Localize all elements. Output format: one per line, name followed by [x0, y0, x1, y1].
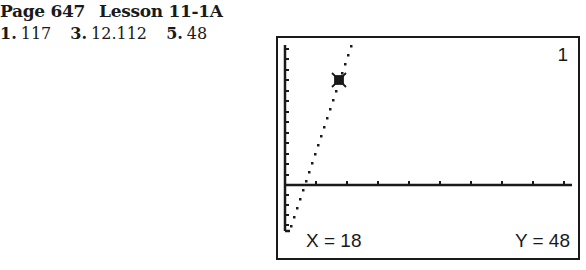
- trace-cursor-icon: [332, 73, 346, 87]
- x-readout: X = 18: [306, 230, 361, 252]
- plot-index: 1: [557, 44, 568, 66]
- answer-item: 1.117: [0, 24, 51, 43]
- answer-list: 1.117 3.12.112 5.48: [0, 24, 221, 43]
- calculator-screen: 1 X = 18 Y = 48: [276, 36, 580, 260]
- lesson-title: Lesson 11-1A: [99, 1, 223, 21]
- answer-item: 5.48: [166, 24, 207, 43]
- answer-item: 3.12.112: [70, 24, 147, 43]
- page-heading: Page 647Lesson 11-1A: [0, 1, 223, 21]
- graph-plot: [278, 38, 578, 258]
- page-number: Page 647: [0, 1, 85, 21]
- y-readout: Y = 48: [515, 230, 570, 252]
